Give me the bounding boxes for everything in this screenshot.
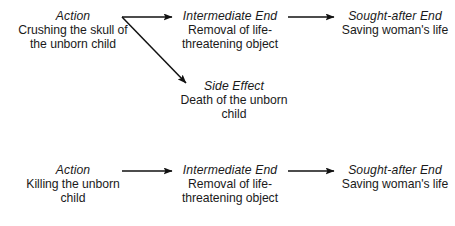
node-intermediate-end-2-body: Removal of life-threatening object [176, 178, 284, 205]
node-side-effect-1: Side Effect Death of the unborn child [176, 80, 292, 121]
node-side-effect-1-title: Side Effect [176, 80, 292, 93]
node-sought-after-end-1-title: Sought-after End [338, 10, 452, 23]
node-action-2-title: Action [14, 164, 132, 177]
node-sought-after-end-2: Sought-after End Saving woman's life [338, 164, 452, 192]
node-action-2: Action Killing the unborn child [14, 164, 132, 205]
node-sought-after-end-1-body: Saving woman's life [338, 24, 452, 37]
node-intermediate-end-1-title: Intermediate End [176, 10, 284, 23]
node-intermediate-end-1: Intermediate End Removal of life-threate… [176, 10, 284, 51]
node-action-2-body: Killing the unborn child [14, 178, 132, 205]
node-side-effect-1-body: Death of the unborn child [176, 94, 292, 121]
node-action-1: Action Crushing the skull of the unborn … [14, 10, 132, 51]
node-intermediate-end-1-body: Removal of life-threatening object [176, 24, 284, 51]
node-sought-after-end-2-body: Saving woman's life [338, 178, 452, 191]
node-intermediate-end-2-title: Intermediate End [176, 164, 284, 177]
flow-diagram: Action Crushing the skull of the unborn … [0, 0, 455, 226]
node-sought-after-end-2-title: Sought-after End [338, 164, 452, 177]
node-sought-after-end-1: Sought-after End Saving woman's life [338, 10, 452, 38]
node-action-1-body: Crushing the skull of the unborn child [14, 24, 132, 51]
node-action-1-title: Action [14, 10, 132, 23]
node-intermediate-end-2: Intermediate End Removal of life-threate… [176, 164, 284, 205]
